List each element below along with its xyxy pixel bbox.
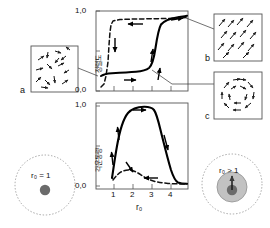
upper-chart <box>96 11 188 91</box>
schematic-right-label: r₀ > 1 <box>219 166 239 175</box>
lower-y-axis-label: 각운동량 <box>93 148 103 172</box>
leader-line-b <box>186 18 214 29</box>
x-axis-label: r₀ <box>136 203 142 212</box>
inset-a-panel <box>31 46 78 92</box>
panel-letter-c: c <box>205 111 210 121</box>
xtick-label-1: 1 <box>111 191 115 199</box>
lower-ytick-label-bottom: 0,0 <box>75 182 86 190</box>
upper-ytick-label-bottom: 0,0 <box>75 86 86 94</box>
panel-letter-b: b <box>205 53 210 63</box>
figure-canvas <box>0 0 270 228</box>
inset-b-panel <box>214 14 262 61</box>
lower-ytick-label-top: 1,0 <box>75 101 86 109</box>
figure-root: 1,0 0,0 1,0 0,0 1 2 3 4 r₀ 정렬도 각운동량 a b … <box>0 0 270 228</box>
schematic-left-core-dot <box>40 185 50 195</box>
lower-chart <box>96 103 188 189</box>
upper-ytick-label-top: 1,0 <box>75 7 86 15</box>
upper-y-axis-label: 정렬도 <box>93 55 103 73</box>
panel-letter-a: a <box>20 85 25 95</box>
schematic-right <box>202 154 262 214</box>
schematic-left <box>15 155 75 215</box>
upper-plot-frame <box>96 11 188 91</box>
xtick-label-4: 4 <box>168 191 172 199</box>
xtick-label-2: 2 <box>130 191 134 199</box>
schematic-left-label: r₀ = 1 <box>31 171 51 180</box>
inset-c-panel <box>214 72 262 119</box>
xtick-label-3: 3 <box>149 191 153 199</box>
